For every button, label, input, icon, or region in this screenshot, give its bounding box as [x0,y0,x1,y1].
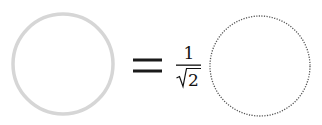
fraction-one-over-root-two: 1 2 [176,43,201,90]
right-dotted-circle [210,16,310,116]
fraction-numerator: 1 [184,43,195,63]
fraction-denominator: 2 [177,69,202,91]
equals-sign [133,59,162,73]
fraction-bar [176,65,201,66]
radicand: 2 [188,70,199,90]
left-solid-circle [13,14,113,114]
equation-diagram: 1 2 [0,0,322,125]
